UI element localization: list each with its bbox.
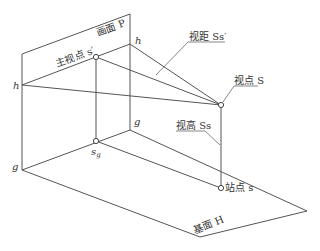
picture-plane-outline [22, 14, 130, 170]
sight-line-to-h-right [130, 44, 221, 105]
ground-right-label: g [134, 116, 140, 127]
leader-viewpoint [223, 86, 234, 102]
sight-line-principal [96, 57, 221, 105]
leader-viewing-distance [156, 42, 188, 75]
perspective-diagram: 画面 P 主视点 s′ 视距 Ss′ 视点 S 视高 Ss 站点 s 基面 H … [0, 0, 320, 251]
principal-foot-subscript: g [96, 151, 101, 159]
viewpoint-label: 视点 S [234, 74, 264, 86]
picture-plane-label: 画面 P [95, 17, 127, 38]
viewpoint-marker [218, 102, 223, 107]
principal-foot-marker [93, 138, 98, 143]
viewing-distance-label: 视距 Ss′ [189, 30, 227, 42]
horizon-right-label: h [135, 35, 141, 46]
station-point-label: 站点 s [225, 181, 253, 193]
ground-line-gg [22, 130, 130, 170]
ground-left-label: g [12, 161, 18, 172]
horizon-left-label: h [13, 80, 19, 91]
ground-plane-outline [22, 130, 307, 237]
diagram-svg: 画面 P 主视点 s′ 视距 Ss′ 视点 S 视高 Ss 站点 s 基面 H … [0, 0, 320, 251]
station-point-marker [218, 185, 223, 190]
viewing-height-label: 视高 Ss [176, 119, 211, 131]
leader-viewing-height [205, 131, 220, 145]
sight-line-to-h-left [22, 85, 221, 105]
principal-foot-label: sg [91, 146, 101, 159]
principal-foot-to-station [96, 141, 221, 188]
